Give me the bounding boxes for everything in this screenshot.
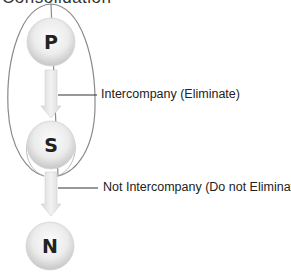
arrow-p-to-s: [41, 70, 61, 118]
node-s: S: [27, 121, 75, 169]
edge-label-intercompany: Intercompany (Eliminate): [101, 87, 240, 101]
arrow-s-to-n: [41, 172, 61, 216]
diagram-canvas: P S N: [0, 0, 291, 274]
node-n: N: [26, 222, 74, 270]
node-p-label: P: [44, 31, 58, 53]
edge-label-not-intercompany: Not Intercompany (Do not Eliminate): [103, 180, 291, 194]
node-s-label: S: [44, 134, 58, 156]
node-n-label: N: [42, 235, 58, 257]
node-p: P: [27, 18, 75, 66]
